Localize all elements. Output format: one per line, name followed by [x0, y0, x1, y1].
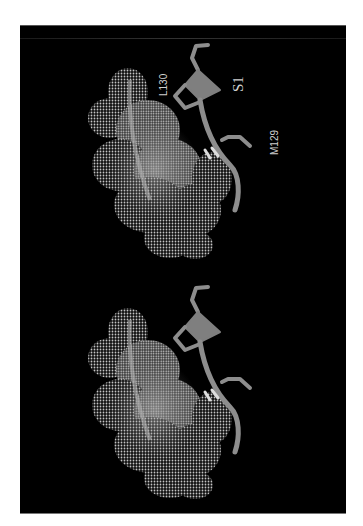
upper-stereo-view — [88, 45, 250, 259]
lower-stereo-view — [88, 287, 250, 499]
residue-label-l130: L130 — [158, 74, 169, 96]
stereo-scene — [0, 0, 363, 526]
residue-label-m129: M129 — [269, 130, 280, 155]
pocket-surface — [88, 68, 232, 259]
site-label-s1: S1 — [230, 76, 247, 92]
